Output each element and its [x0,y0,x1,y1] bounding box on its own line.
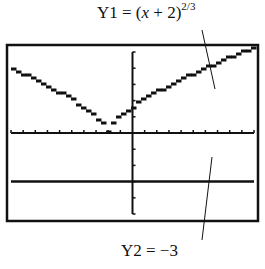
y1-curve-segment [71,98,77,101]
y1-curve-segment [186,74,192,77]
y1-curve-segment [226,56,232,59]
y1-curve-segment [101,122,107,125]
axes [11,52,254,214]
y1-curve-segment [231,56,237,59]
y1-curve-segment [56,92,62,95]
y1-curve-segment [151,92,157,95]
y1-curve-segment [171,83,177,86]
y1-curve-segment [166,86,172,89]
y1-leader-line [202,30,215,89]
y1-curve-segment [91,113,97,116]
y1-curve-segment [251,47,257,50]
y1-curve-segment [36,80,42,83]
y1-curve-segment [241,50,247,53]
y1-curve-segment [141,98,147,101]
y1-curve-segment [81,107,87,110]
y1-curve-segment [21,74,27,77]
y1-curve-segment [61,92,67,95]
y1-curve-segment [136,101,142,104]
y1-curve-segment [96,119,102,122]
y1-curve-segment [196,71,202,74]
y1-curve-segment [11,68,17,71]
y1-curve-segment [41,83,47,86]
y1-curve-segment [146,95,152,98]
y1-curve-segment [31,77,37,80]
y1-curve-segment [246,50,252,53]
y1-curve-segment [66,95,72,98]
curves [11,47,257,182]
y1-curve-segment [121,113,127,116]
y1-curve-segment [221,59,227,62]
y1-curve-segment [156,89,162,92]
calculator-graph-screen [0,0,265,269]
y1-curve-segment [131,107,137,110]
y1-curve-segment [111,122,117,125]
y1-curve-segment [46,86,52,89]
y1-curve-segment [161,89,167,92]
y1-curve-segment [106,131,112,134]
y1-curve-segment [16,71,22,74]
y1-curve-segment [86,110,92,113]
y1-curve-segment [201,68,207,71]
y1-curve-segment [191,74,197,77]
y1-curve-segment [176,80,182,83]
y1-curve-segment [211,65,217,68]
y1-curve-segment [216,62,222,65]
y1-curve-segment [126,110,132,113]
y1-curve-segment [51,89,57,92]
y1-curve-segment [26,74,32,77]
y1-curve-segment [76,104,82,107]
y1-curve-segment [116,116,122,119]
y1-curve-segment [181,77,187,80]
y2-leader-line [202,157,212,240]
y1-curve-segment [236,53,242,56]
